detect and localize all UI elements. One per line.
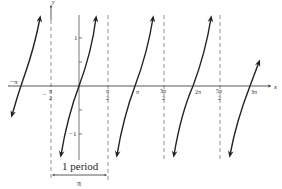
x-tick-half-pi-den: 2: [106, 95, 109, 101]
x-tick-neg-half-pi-sign: −: [43, 91, 47, 97]
branch-zero: [61, 18, 96, 155]
branch-three-pi: [230, 62, 259, 155]
branch-two-pi: [174, 18, 211, 155]
period-width-label: π: [77, 179, 81, 188]
branch-pi: [117, 18, 153, 155]
y-tick-label-neg-1: −1: [69, 130, 77, 138]
x-tick-neg-half-pi-den: 2: [49, 95, 52, 101]
period-label: 1 period: [62, 160, 99, 172]
tangent-graph: y 1 −1 x −π − π 2 π 2 π 3π 2 2π 5π 2 3π: [0, 0, 282, 189]
tangent-curves: [12, 18, 259, 155]
x-tick-pi: π: [136, 89, 139, 95]
x-tick-five-half-pi-den: 2: [218, 95, 221, 101]
y-axis-label: y: [51, 0, 55, 5]
y-tick-label-1: 1: [74, 34, 78, 42]
x-tick-three-half-pi-den: 2: [162, 95, 165, 101]
x-tick-three-pi: 3π: [251, 89, 257, 95]
period-annotation: 1 period π: [53, 160, 106, 188]
x-tick-five-half-pi-num: 5π: [216, 88, 222, 94]
x-tick-neg-pi: −π: [10, 78, 18, 86]
y-axis: [79, 15, 82, 160]
x-tick-two-pi: 2π: [195, 89, 201, 95]
x-axis-label: x: [273, 83, 278, 91]
x-tick-three-half-pi-num: 3π: [160, 88, 166, 94]
branch-neg-pi: [12, 18, 40, 115]
x-tick-neg-half-pi-num: π: [49, 88, 52, 94]
x-tick-half-pi-num: π: [106, 88, 109, 94]
